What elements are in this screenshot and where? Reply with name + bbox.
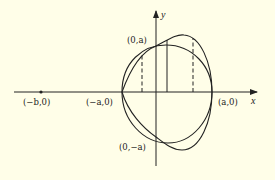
y-axis-label: y [160,9,166,20]
point-neg-b-dot [39,90,42,93]
label-bottom: (0,−a) [119,142,146,152]
label-neg-a: (−a,0) [86,97,113,107]
label-neg-b: (−b,0) [23,97,50,107]
label-top: (0,a) [127,35,147,45]
label-pos-a: (a,0) [218,97,238,107]
diagram: (−b,0) (−a,0) (a,0) (0,a) (0,−a) x y [0,0,275,180]
x-axis-label: x [250,95,256,106]
